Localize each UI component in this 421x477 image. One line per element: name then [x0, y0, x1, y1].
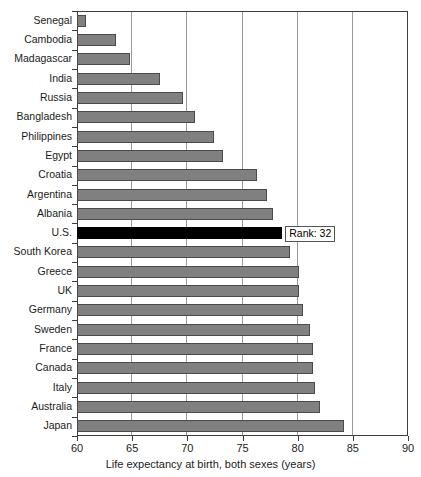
bar-russia [77, 92, 183, 104]
category-label: Australia [0, 401, 72, 412]
category-label: Russia [0, 92, 72, 103]
bar-france [77, 343, 313, 355]
category-label: Bangladesh [0, 111, 72, 122]
category-label: UK [0, 285, 72, 296]
x-axis-tick-label: 80 [283, 442, 313, 455]
y-axis-tick [72, 30, 77, 31]
category-label: Cambodia [0, 34, 72, 45]
y-axis-tick [72, 262, 77, 263]
bar-germany [77, 304, 303, 316]
y-axis-tick [72, 88, 77, 89]
category-label: Canada [0, 362, 72, 373]
x-axis-tick-label: 70 [172, 442, 202, 455]
y-axis-tick [72, 243, 77, 244]
x-axis-tick [243, 436, 244, 441]
bar-philippines [77, 131, 214, 143]
x-axis-tick-label: 60 [62, 442, 92, 455]
bar-canada [77, 362, 313, 374]
category-label: Italy [0, 382, 72, 393]
y-axis-tick [72, 166, 77, 167]
y-axis-tick [72, 417, 77, 418]
y-axis-tick [72, 339, 77, 340]
bar-egypt [77, 150, 223, 162]
y-axis-tick [72, 185, 77, 186]
x-axis-tick-label: 85 [338, 442, 368, 455]
y-axis-tick [72, 11, 77, 12]
y-axis-tick [72, 127, 77, 128]
rank-annotation-badge: Rank: 32 [285, 226, 335, 242]
bar-u-s [77, 227, 282, 239]
bar-croatia [77, 169, 257, 181]
bar-greece [77, 266, 299, 278]
y-axis-tick [72, 397, 77, 398]
y-axis-tick [72, 146, 77, 147]
category-label: Germany [0, 304, 72, 315]
bar-australia [77, 401, 320, 413]
category-label: Sweden [0, 324, 72, 335]
category-label: Madagascar [0, 53, 72, 64]
y-axis-tick [72, 359, 77, 360]
bar-madagascar [77, 53, 130, 65]
life-expectancy-bar-chart: SenegalCambodiaMadagascarIndiaRussiaBang… [0, 0, 421, 477]
category-label: U.S. [0, 227, 72, 238]
y-axis-tick [72, 320, 77, 321]
bar-bangladesh [77, 111, 195, 123]
bar-japan [77, 420, 344, 432]
y-axis-tick [72, 204, 77, 205]
bar-south-korea [77, 246, 290, 258]
bar-albania [77, 208, 273, 220]
y-axis-tick [72, 223, 77, 224]
category-label: Albania [0, 208, 72, 219]
bar-uk [77, 285, 299, 297]
y-axis-tick [72, 281, 77, 282]
bar-italy [77, 382, 315, 394]
y-axis-tick [72, 108, 77, 109]
x-axis-tick [353, 436, 354, 441]
y-axis-tick [72, 69, 77, 70]
x-axis-tick-label: 75 [228, 442, 258, 455]
category-label: South Korea [0, 246, 72, 257]
category-label: Argentina [0, 189, 72, 200]
category-label: Senegal [0, 15, 72, 26]
bars-layer [77, 11, 408, 436]
bar-india [77, 73, 160, 85]
bar-sweden [77, 324, 310, 336]
x-axis-tick [408, 436, 409, 441]
y-axis-tick [72, 50, 77, 51]
y-axis-tick [72, 301, 77, 302]
y-axis-tick [72, 378, 77, 379]
category-label: Philippines [0, 131, 72, 142]
x-axis-tick [187, 436, 188, 441]
bar-senegal [77, 15, 86, 27]
x-axis-title: Life expectancy at birth, both sexes (ye… [0, 458, 421, 470]
category-axis-labels: SenegalCambodiaMadagascarIndiaRussiaBang… [0, 11, 72, 436]
category-label: Egypt [0, 150, 72, 161]
category-label: Japan [0, 420, 72, 431]
x-axis-tick [132, 436, 133, 441]
x-axis-tick-label: 90 [393, 442, 421, 455]
category-label: Croatia [0, 169, 72, 180]
x-axis-tick [298, 436, 299, 441]
bar-argentina [77, 189, 267, 201]
category-label: India [0, 73, 72, 84]
x-axis-tick [77, 436, 78, 441]
bar-cambodia [77, 34, 116, 46]
x-axis-tick-label: 65 [117, 442, 147, 455]
category-label: France [0, 343, 72, 354]
category-label: Greece [0, 266, 72, 277]
